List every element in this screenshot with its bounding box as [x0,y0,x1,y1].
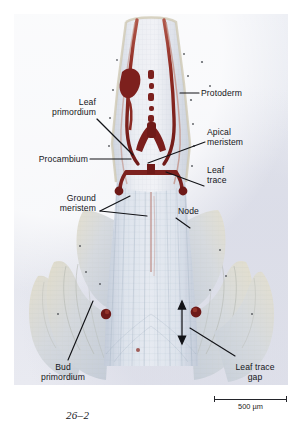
label-apical-meristem: Apical meristem [207,127,277,147]
label-ground-meristem: Ground meristem [24,193,96,213]
label-procambium: Procambium [14,154,88,164]
scale-bar-label: 500 µm [214,402,287,411]
label-leaf-trace: Leaf trace [207,165,263,185]
figure-plate: Protoderm Leaf primordium Apical meriste… [0,0,302,430]
label-leaf-primordium: Leaf primordium [22,97,96,117]
label-protoderm: Protoderm [201,88,273,98]
label-leaf-trace-gap: Leaf trace gap [219,362,291,382]
figure-number: 26–2 [66,409,89,421]
scale-bar: 500 µm [214,396,287,414]
label-node: Node [178,206,224,216]
label-bud-primordium: Bud primordium [25,362,101,382]
